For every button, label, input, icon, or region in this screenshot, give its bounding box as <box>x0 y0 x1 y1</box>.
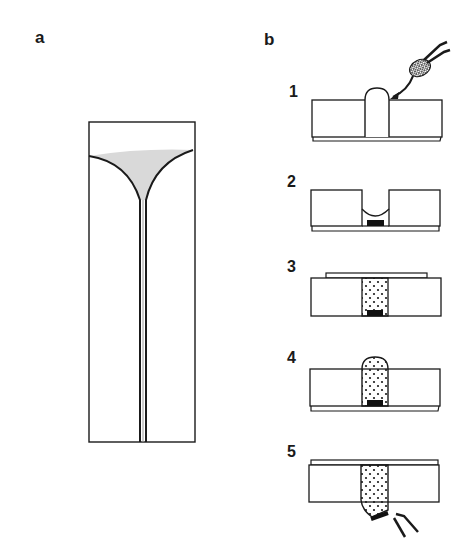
step-4-diagram <box>310 357 440 411</box>
diagram-canvas <box>0 0 470 556</box>
step-3-diagram <box>311 273 441 316</box>
step-1-diagram <box>312 42 450 141</box>
step-5-diagram <box>309 460 439 537</box>
step-2-diagram <box>311 190 440 231</box>
panel-a-chamber <box>89 122 195 442</box>
